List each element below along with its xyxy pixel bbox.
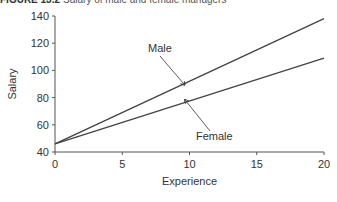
y-tick-label: 80 bbox=[37, 92, 49, 104]
y-tick-label: 100 bbox=[31, 64, 49, 76]
x-tick-label: 5 bbox=[119, 158, 125, 170]
y-tick-label: 120 bbox=[31, 37, 49, 49]
y-tick-label: 140 bbox=[31, 10, 49, 22]
line-chart: 40608010012014005101520ExperienceSalaryM… bbox=[0, 0, 337, 202]
annotation-male: Male bbox=[148, 42, 172, 54]
annotation-arrow-female bbox=[185, 100, 210, 131]
y-tick-label: 60 bbox=[37, 119, 49, 131]
series-line-male bbox=[55, 19, 324, 144]
x-tick-label: 0 bbox=[52, 158, 58, 170]
y-axis-label: Salary bbox=[6, 68, 18, 100]
x-tick-label: 10 bbox=[183, 158, 195, 170]
annotation-arrow-male bbox=[160, 56, 185, 85]
x-tick-label: 15 bbox=[251, 158, 263, 170]
x-tick-label: 20 bbox=[318, 158, 330, 170]
x-axis-label: Experience bbox=[162, 175, 217, 187]
annotation-female: Female bbox=[196, 130, 233, 142]
y-tick-label: 40 bbox=[37, 146, 49, 158]
series-line-female bbox=[55, 58, 324, 144]
